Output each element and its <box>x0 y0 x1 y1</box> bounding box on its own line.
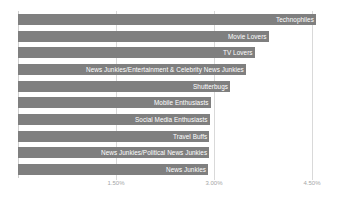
bar-label: TV Lovers <box>221 47 255 58</box>
bar-row[interactable]: Technophiles <box>18 14 328 25</box>
x-tick-label: 3.00% <box>205 180 222 186</box>
bar-label: News Junkies/Entertainment & Celebrity N… <box>84 64 246 75</box>
bar-label: Shutterbugs <box>191 81 230 92</box>
bar-chart: TechnophilesMovie LoversTV LoversNews Ju… <box>0 0 358 199</box>
bars-layer: TechnophilesMovie LoversTV LoversNews Ju… <box>18 11 328 178</box>
bar-label: News Junkies <box>164 164 208 175</box>
bar-row[interactable]: Movie Lovers <box>18 31 328 42</box>
bar[interactable] <box>18 47 255 58</box>
bar-row[interactable]: Shutterbugs <box>18 81 328 92</box>
x-tick-label: 4.50% <box>303 180 320 186</box>
bar-label: Social Media Enthusiasts <box>133 114 210 125</box>
bar[interactable] <box>18 14 316 25</box>
bar-label: Technophiles <box>274 14 316 25</box>
bar-row[interactable]: Social Media Enthusiasts <box>18 114 328 125</box>
plot-area: TechnophilesMovie LoversTV LoversNews Ju… <box>18 11 328 178</box>
bar-label: Travel Buffs <box>171 131 209 142</box>
x-tick-label: 1.50% <box>107 180 124 186</box>
bar-row[interactable]: TV Lovers <box>18 47 328 58</box>
bar-row[interactable]: Mobile Enthusiasts <box>18 97 328 108</box>
bar-row[interactable]: News Junkies <box>18 164 328 175</box>
x-axis: 1.50%3.00%4.50% <box>18 178 328 192</box>
bar-row[interactable]: Travel Buffs <box>18 131 328 142</box>
bar-label: Movie Lovers <box>226 31 269 42</box>
bar-label: News Junkies/Political News Junkies <box>99 147 209 158</box>
bar-row[interactable]: News Junkies/Political News Junkies <box>18 147 328 158</box>
bar-row[interactable]: News Junkies/Entertainment & Celebrity N… <box>18 64 328 75</box>
bar-label: Mobile Enthusiasts <box>152 97 211 108</box>
